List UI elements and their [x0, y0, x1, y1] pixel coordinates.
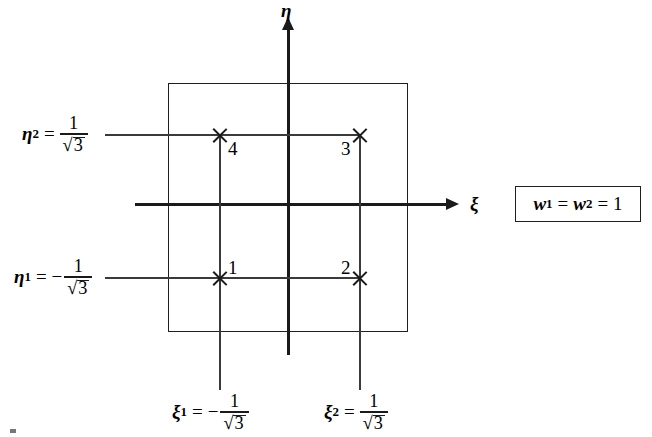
weight-1-symbol: w	[533, 193, 546, 215]
xi1-symbol: ξ	[172, 402, 181, 422]
eta2-leader-line	[105, 134, 220, 135]
eta1-radical-sign: √	[67, 279, 77, 297]
xi1-numerator: 1	[227, 392, 242, 411]
gauss-point-4-number: 4	[228, 139, 238, 158]
gauss-row-bottom-line	[220, 277, 360, 278]
xi2-numerator: 1	[366, 392, 381, 411]
gauss-quadrature-figure: η ξ 4 3 1 2 η2 = 1 √ 3	[0, 0, 652, 437]
eta-axis-label: η	[281, 1, 291, 20]
xi1-equals: =	[192, 402, 203, 422]
xi2-radical-sign: √	[363, 414, 373, 432]
xi-axis-arrowhead	[446, 198, 459, 210]
eta1-numerator: 1	[71, 257, 86, 276]
gauss-row-top-line	[220, 134, 360, 135]
eta-axis-line	[287, 28, 290, 355]
xi1-denominator: √ 3	[220, 413, 248, 432]
gauss-point-2-marker	[352, 270, 369, 287]
xi-axis-line	[135, 203, 447, 206]
eta2-radicand: 3	[73, 136, 85, 154]
gauss-point-1-number: 1	[228, 258, 238, 277]
xi2-fraction: 1 √ 3	[360, 392, 388, 432]
eta2-subscript: 2	[32, 127, 38, 141]
eta2-radical-sign: √	[63, 136, 73, 154]
gauss-point-4-marker	[212, 127, 229, 144]
eta1-label: η1 = − 1 √ 3	[14, 257, 92, 297]
eta2-numerator: 1	[66, 114, 81, 133]
xi2-subscript: 2	[333, 405, 339, 419]
eta1-fraction: 1 √ 3	[64, 257, 92, 297]
xi1-radical-sign: √	[223, 414, 233, 432]
weight-1-subscript: 1	[546, 196, 552, 212]
eta2-symbol: η	[22, 124, 32, 144]
xi1-minus-sign: −	[208, 402, 219, 422]
weights-equals-1: =	[558, 193, 569, 215]
xi2-radical: √ 3	[363, 414, 385, 432]
xi2-leader-line	[359, 135, 360, 390]
xi-axis-label: ξ	[470, 194, 479, 213]
xi2-label: ξ2 = 1 √ 3	[324, 392, 388, 432]
weights-box: w1 = w2 = 1	[515, 186, 641, 222]
eta1-radical: √ 3	[67, 279, 89, 297]
gauss-point-2-number: 2	[341, 258, 351, 277]
eta1-leader-line	[105, 277, 220, 278]
gauss-point-3-number: 3	[341, 139, 351, 158]
xi1-radicand: 3	[233, 414, 245, 432]
scan-artifact-speck	[10, 429, 16, 433]
xi2-symbol: ξ	[324, 402, 333, 422]
eta2-equals: =	[44, 124, 55, 144]
eta2-radical: √ 3	[63, 136, 85, 154]
xi1-radical: √ 3	[223, 414, 245, 432]
eta1-minus-sign: −	[52, 267, 63, 287]
weight-2-symbol: w	[573, 193, 586, 215]
eta1-subscript: 1	[24, 270, 30, 284]
xi1-label: ξ1 = − 1 √ 3	[172, 392, 249, 432]
eta1-symbol: η	[14, 267, 24, 287]
xi2-denominator: √ 3	[360, 413, 388, 432]
eta1-radicand: 3	[77, 279, 89, 297]
eta2-fraction: 1 √ 3	[60, 114, 88, 154]
weights-equals-2: =	[597, 193, 608, 215]
eta1-equals: =	[36, 267, 47, 287]
gauss-point-1-marker	[212, 270, 229, 287]
xi1-fraction: 1 √ 3	[220, 392, 248, 432]
eta2-label: η2 = 1 √ 3	[22, 114, 88, 154]
weights-value: 1	[613, 193, 623, 215]
eta1-denominator: √ 3	[64, 278, 92, 297]
xi1-leader-line	[219, 135, 220, 390]
weight-2-subscript: 2	[586, 196, 592, 212]
gauss-point-3-marker	[352, 127, 369, 144]
eta2-denominator: √ 3	[60, 135, 88, 154]
xi2-radicand: 3	[373, 414, 385, 432]
xi2-equals: =	[344, 402, 355, 422]
xi1-subscript: 1	[181, 405, 187, 419]
